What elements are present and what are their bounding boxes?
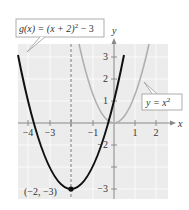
x-axis-arrow — [170, 121, 176, 126]
x-axis-label: x — [177, 118, 183, 129]
x-tick-label: 2 — [154, 127, 159, 138]
x-tick-label: 1 — [133, 127, 138, 138]
x-tick-label: −4 — [23, 127, 34, 138]
x-tick-label: −3 — [45, 127, 56, 138]
y-tick-label: 2 — [103, 73, 108, 84]
g-label: g(x) = (x + 2)2 − 3 — [19, 22, 94, 35]
x-tick-label: −1 — [88, 127, 99, 138]
y-tick-label: 1 — [103, 95, 108, 106]
y-tick-label: 3 — [103, 51, 108, 62]
y-axis-arrow — [112, 38, 117, 44]
y-tick-label: −3 — [97, 183, 108, 194]
y-tick-label: −2 — [97, 139, 108, 150]
y-axis-label: y — [111, 25, 117, 36]
vertex-point — [68, 186, 73, 191]
vertex-label: (−2, −3) — [24, 186, 57, 198]
chart-canvas: −4 −3 −1 1 2 3 2 1 −2 −3 x y g(x) = (x +… — [0, 0, 189, 210]
